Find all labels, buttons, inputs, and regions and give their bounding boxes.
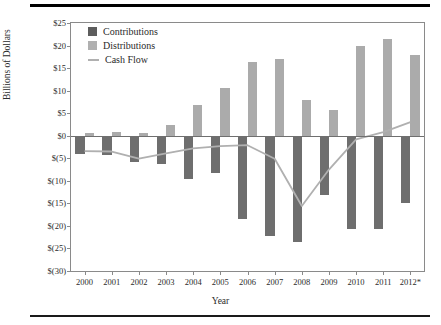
x-tick-label: 2000 xyxy=(76,277,93,287)
x-tick xyxy=(329,271,330,275)
y-tick-label: $(20) xyxy=(48,221,66,231)
y-tick-label: $(15) xyxy=(48,198,66,208)
y-axis-title: Billions of Dollars xyxy=(2,29,12,100)
x-tick-label: 2008 xyxy=(293,277,310,287)
y-tick-label: $(25) xyxy=(48,243,66,253)
x-tick xyxy=(139,271,140,275)
x-tick-label: 2009 xyxy=(320,277,337,287)
legend-label-cash-flow: Cash Flow xyxy=(105,54,148,65)
y-tick-label: $(30) xyxy=(48,266,66,276)
square-swatch-icon xyxy=(88,41,97,50)
x-tick-label: 2002 xyxy=(130,277,147,287)
zero-baseline xyxy=(71,136,424,137)
line-swatch-icon xyxy=(88,59,99,61)
x-tick-label: 2006 xyxy=(239,277,256,287)
chart-legend: Contributions Distributions Cash Flow xyxy=(88,26,158,65)
y-tick xyxy=(67,271,71,272)
legend-label-distributions: Distributions xyxy=(103,40,155,51)
y-tick-label: $20 xyxy=(53,41,66,51)
y-tick-label: $10 xyxy=(53,86,66,96)
x-tick xyxy=(383,271,384,275)
chart-figure: Billions of Dollars Year $25$20$15$10$5$… xyxy=(0,0,441,325)
x-tick-label: 2004 xyxy=(185,277,202,287)
legend-label-contributions: Contributions xyxy=(103,26,158,37)
x-tick xyxy=(302,271,303,275)
x-tick-label: 2007 xyxy=(266,277,283,287)
x-tick-label: 2010 xyxy=(348,277,365,287)
y-tick-label: $(10) xyxy=(48,176,66,186)
x-tick xyxy=(410,271,411,275)
legend-item-distributions: Distributions xyxy=(88,40,158,51)
legend-item-contributions: Contributions xyxy=(88,26,158,37)
x-tick-label: 2012* xyxy=(400,277,421,287)
legend-item-cash-flow: Cash Flow xyxy=(88,54,158,65)
square-swatch-icon xyxy=(88,27,97,36)
x-tick xyxy=(85,271,86,275)
x-tick xyxy=(275,271,276,275)
x-tick xyxy=(248,271,249,275)
x-tick-label: 2011 xyxy=(375,277,392,287)
x-tick-label: 2005 xyxy=(212,277,229,287)
x-tick xyxy=(112,271,113,275)
y-tick-label: $0 xyxy=(58,131,67,141)
y-tick-label: $5 xyxy=(58,108,67,118)
x-tick xyxy=(220,271,221,275)
x-axis-title: Year xyxy=(0,296,441,306)
x-tick-label: 2003 xyxy=(158,277,175,287)
x-tick xyxy=(356,271,357,275)
x-tick xyxy=(166,271,167,275)
y-tick-label: $25 xyxy=(53,18,66,28)
y-tick-label: $(5) xyxy=(52,153,66,163)
y-tick-label: $15 xyxy=(53,63,66,73)
x-tick-label: 2001 xyxy=(103,277,120,287)
x-tick xyxy=(193,271,194,275)
